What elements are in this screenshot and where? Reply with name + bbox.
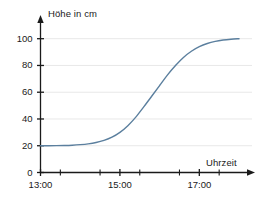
x-tick-label: 13:00	[21, 179, 61, 190]
y-tick-label: 100	[7, 33, 33, 44]
plot-area	[0, 0, 257, 206]
gridlines	[41, 39, 253, 146]
chart-container: Höhe in cm Uhrzeit 020406080100 13:0015:…	[0, 0, 257, 206]
y-tick-label: 20	[7, 140, 33, 151]
x-tick-label: 17:00	[179, 179, 219, 190]
axis-ticks	[37, 39, 219, 176]
y-tick-label: 0	[7, 167, 33, 178]
y-tick-label: 40	[7, 113, 33, 124]
y-tick-label: 60	[7, 86, 33, 97]
y-tick-label: 80	[7, 59, 33, 70]
x-tick-label: 15:00	[100, 179, 140, 190]
